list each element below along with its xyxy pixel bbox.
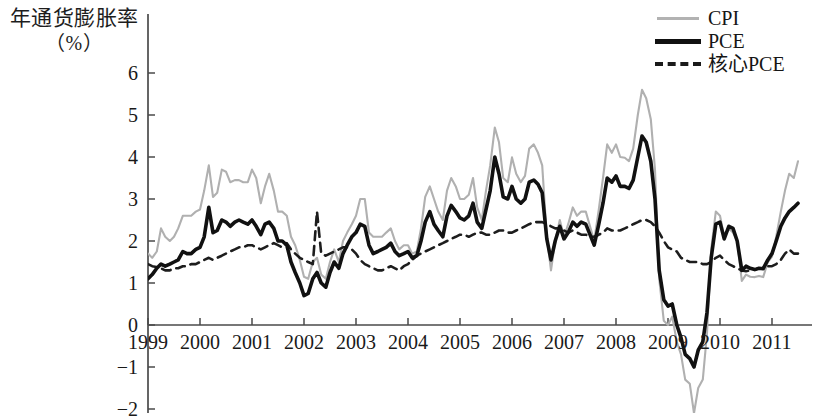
y-tick-label: 1 (104, 273, 138, 293)
x-tick-label: 2006 (488, 332, 536, 352)
x-tick-label: 2009 (644, 332, 692, 352)
y-tick-label: 3 (104, 189, 138, 209)
x-tick-label: 2003 (332, 332, 380, 352)
x-tick-label: 2007 (540, 332, 588, 352)
y-tick-label: −2 (104, 399, 138, 419)
y-tick-label: 2 (104, 231, 138, 251)
x-tick-label: 2008 (592, 332, 640, 352)
x-tick-label: 2011 (748, 332, 796, 352)
y-tick-label: 4 (104, 147, 138, 167)
x-tick-label: 2002 (280, 332, 328, 352)
y-tick-label: 5 (104, 105, 138, 125)
y-tick-label: 6 (104, 63, 138, 83)
x-tick-label: 2000 (176, 332, 224, 352)
x-tick-label: 2004 (384, 332, 432, 352)
x-tick-label: 2005 (436, 332, 484, 352)
series-line-cpi (148, 90, 798, 413)
series-line-core-pce (148, 212, 798, 272)
x-tick-label: 2001 (228, 332, 276, 352)
x-tick-label: 2010 (696, 332, 744, 352)
y-tick-label: −1 (104, 357, 138, 377)
x-tick-label: 1999 (124, 332, 172, 352)
